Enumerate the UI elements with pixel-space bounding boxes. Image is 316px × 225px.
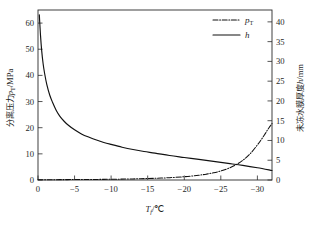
svg-text:未冻水膜厚度h/mm: 未冻水膜厚度h/mm (295, 64, 305, 132)
y-right-tick-label: 40 (276, 17, 285, 27)
svg-text:pT: pT (244, 15, 254, 26)
y-axis-left: 0 10 20 30 40 50 60 (25, 18, 42, 185)
series-line-h (39, 15, 272, 171)
y-left-tick-label: 60 (25, 18, 34, 28)
x-tick-label: −10 (104, 184, 117, 194)
x-axis-title: Tf/℃ (146, 204, 165, 215)
y-axis-left-title: 分离压力pT/MPa (5, 68, 16, 127)
x-tick-label: −25 (214, 184, 227, 194)
y-right-tick-label: 10 (276, 135, 285, 145)
y-right-title-cn: 未冻水膜厚度 (295, 84, 305, 132)
x-tick-label: −15 (141, 184, 154, 194)
x-tick-label: −20 (178, 184, 191, 194)
y-right-tick-label: 30 (276, 56, 285, 66)
y-right-tick-label: 35 (276, 37, 285, 47)
y-left-tick-label: 10 (25, 149, 34, 159)
legend-label-pt-subscript: T (250, 19, 254, 26)
y-right-tick-label: 5 (276, 155, 280, 165)
series-line-pt (38, 124, 272, 180)
svg-text:分离压力pT/MPa: 分离压力pT/MPa (5, 68, 16, 127)
y-left-tick-label: 20 (25, 123, 34, 133)
legend: pT h (213, 15, 254, 40)
figure-container: 0 −5 −10 −15 −20 −25 −30 Tf/℃ 0 10 20 (0, 0, 316, 225)
y-left-title-unit: /MPa (5, 68, 15, 87)
legend-label-h: h (245, 30, 250, 40)
y-axis-right-title: 未冻水膜厚度h/mm (295, 64, 305, 132)
y-left-tick-label: 40 (25, 70, 34, 80)
y-right-title-unit: /mm (295, 64, 305, 80)
y-left-tick-label: 30 (25, 97, 34, 107)
y-left-title-cn: 分离压力 (5, 95, 15, 127)
chart-svg: 0 −5 −10 −15 −20 −25 −30 Tf/℃ 0 10 20 (0, 0, 316, 225)
svg-text:Tf/℃: Tf/℃ (146, 204, 165, 215)
y-right-tick-label: 25 (276, 76, 285, 86)
x-axis-title-unit: /℃ (152, 204, 164, 214)
y-left-tick-label: 50 (25, 44, 34, 54)
x-tick-label: 0 (36, 184, 40, 194)
y-right-tick-label: 0 (276, 175, 280, 185)
y-right-tick-label: 20 (276, 96, 285, 106)
x-tick-label: −5 (70, 184, 79, 194)
y-axis-right: 0 5 10 15 20 25 30 35 40 (268, 17, 285, 185)
y-left-tick-label: 0 (30, 175, 34, 185)
x-tick-label: −30 (251, 184, 264, 194)
series-layer (38, 15, 272, 180)
y-right-tick-label: 15 (276, 116, 285, 126)
